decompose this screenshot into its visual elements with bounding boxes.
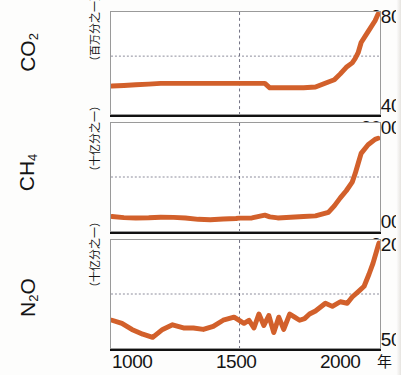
y-axis-unit-co2: （百万分之一） — [56, 22, 82, 102]
y-axis-title-ch4: CH4 — [0, 160, 58, 210]
axis-baseline-ch4 — [110, 232, 381, 234]
plot-panel-co2 — [110, 11, 381, 115]
data-line-co2 — [112, 14, 378, 88]
y-axis-unit-n2o: （十亿分之一） — [56, 248, 82, 338]
x-tick-2000: 2000 — [320, 352, 360, 372]
y-axis-title-n2o: N2O — [0, 285, 58, 335]
y-axis-title-co2: CO2 — [0, 40, 58, 90]
data-line-n2o — [112, 243, 379, 337]
data-line-ch4 — [112, 138, 378, 219]
x-axis-unit-label: 年 — [377, 352, 392, 372]
plot-area-ch4 — [111, 123, 380, 231]
page-edge-artifact — [396, 0, 401, 375]
co2-plot-svg — [111, 12, 380, 114]
plot-area-n2o — [111, 240, 380, 348]
axis-baseline-co2 — [110, 115, 381, 117]
greenhouse-gas-concentration-figure: CO2 （百万分之一） 380 240 CH4 （十亿分之一） 2000 500 — [0, 0, 401, 375]
x-tick-1500: 1500 — [216, 352, 256, 372]
plot-panel-ch4 — [110, 122, 381, 232]
ch4-plot-svg — [111, 123, 380, 231]
plot-panel-n2o — [110, 239, 381, 349]
x-tick-1000: 1000 — [112, 352, 152, 372]
plot-area-co2 — [111, 12, 380, 114]
n2o-plot-svg — [111, 240, 380, 348]
y-axis-unit-ch4: （十亿分之一） — [56, 132, 82, 222]
